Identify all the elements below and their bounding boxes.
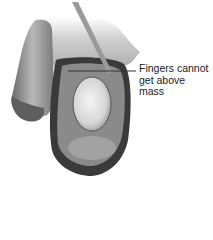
lower-lobe xyxy=(68,136,116,160)
annotation-line-3: mass xyxy=(139,86,213,98)
annotation-line-1: Fingers cannot xyxy=(139,63,213,75)
annotation-label: Fingers cannot get above mass xyxy=(139,63,213,98)
testicular-mass xyxy=(73,77,111,131)
